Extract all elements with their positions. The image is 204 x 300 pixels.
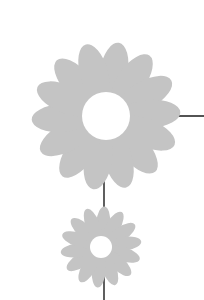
flower-center [82, 92, 130, 140]
daisy-illustration [0, 0, 204, 300]
flower-center [90, 236, 112, 258]
small-daisy-icon [60, 206, 142, 288]
large-daisy-icon [31, 40, 181, 191]
